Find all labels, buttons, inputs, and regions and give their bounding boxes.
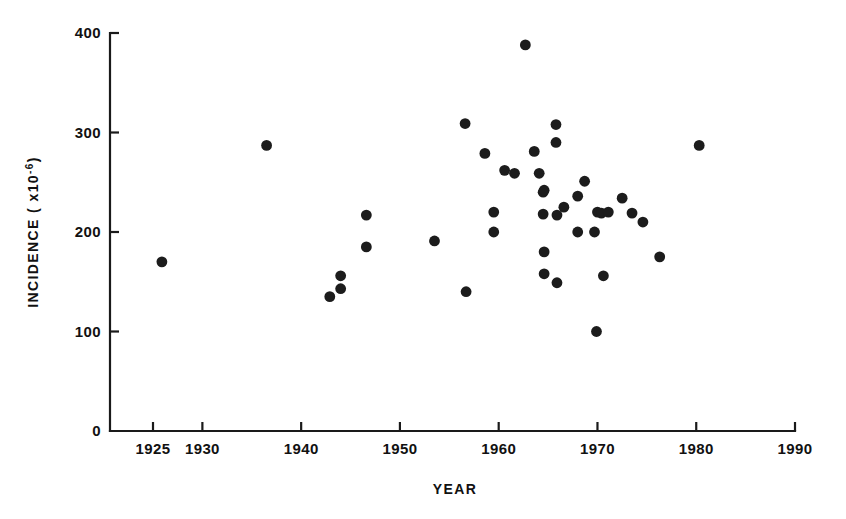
data-point [488, 207, 499, 218]
data-point [529, 146, 540, 157]
data-point [572, 191, 583, 202]
data-point [627, 208, 638, 219]
x-tick-label: 1960 [481, 440, 516, 457]
y-axis-title-exponent: -6 [24, 162, 35, 174]
data-point [261, 140, 272, 151]
data-point [694, 140, 705, 151]
y-tick-label: 400 [75, 24, 101, 41]
data-point [361, 210, 372, 221]
y-tick-label: 0 [92, 422, 101, 439]
data-point [479, 148, 490, 159]
x-tick-label: 1970 [580, 440, 615, 457]
data-point [572, 227, 583, 238]
y-axis-title-main: INCIDENCE ( x10 [25, 174, 41, 308]
x-tick-group: 19251930194019501960197019801990 [136, 422, 813, 457]
y-tick-label: 100 [75, 323, 101, 340]
data-point [538, 209, 549, 220]
data-point [598, 270, 609, 281]
y-tick-label: 200 [75, 223, 101, 240]
data-point [324, 291, 335, 302]
x-tick-label: 1940 [284, 440, 319, 457]
chart-page: 0100200300400 19251930194019501960197019… [0, 0, 846, 519]
data-point [509, 168, 520, 179]
scatter-plot: 0100200300400 19251930194019501960197019… [0, 0, 846, 519]
data-point [499, 165, 510, 176]
data-point [638, 217, 649, 228]
data-point [156, 256, 167, 267]
data-point [460, 118, 471, 129]
data-point [335, 270, 346, 281]
data-point [558, 202, 569, 213]
data-point [461, 286, 472, 297]
data-point [551, 137, 562, 148]
svg-text:INCIDENCE ( x10-6): INCIDENCE ( x10-6) [24, 156, 41, 308]
data-point [520, 40, 531, 51]
data-point [534, 168, 545, 179]
data-point [589, 227, 600, 238]
x-tick-label: 1930 [185, 440, 220, 457]
y-tick-label: 300 [75, 124, 101, 141]
data-point [361, 242, 372, 253]
x-axis-group: 19251930194019501960197019801990 [110, 422, 812, 457]
data-point [539, 247, 550, 258]
data-point [335, 283, 346, 294]
y-axis-title-group: INCIDENCE ( x10-6) [24, 156, 41, 308]
data-point-group [156, 40, 704, 337]
y-tick-group: 0100200300400 [75, 24, 119, 439]
data-point [551, 119, 562, 130]
y-axis-group: 0100200300400 [75, 24, 119, 439]
data-point [539, 268, 550, 279]
x-tick-label: 1925 [136, 440, 171, 457]
data-point [603, 207, 614, 218]
y-axis-title-close: ) [25, 156, 41, 162]
x-tick-label: 1990 [778, 440, 813, 457]
data-point [617, 193, 628, 204]
data-point [429, 236, 440, 247]
data-point [579, 176, 590, 187]
data-point [654, 251, 665, 262]
x-tick-label: 1950 [382, 440, 417, 457]
x-tick-label: 1980 [679, 440, 714, 457]
data-point [552, 277, 563, 288]
x-axis-title: YEAR [433, 481, 478, 497]
data-point [488, 227, 499, 238]
data-point [591, 326, 602, 337]
data-point [539, 185, 550, 196]
